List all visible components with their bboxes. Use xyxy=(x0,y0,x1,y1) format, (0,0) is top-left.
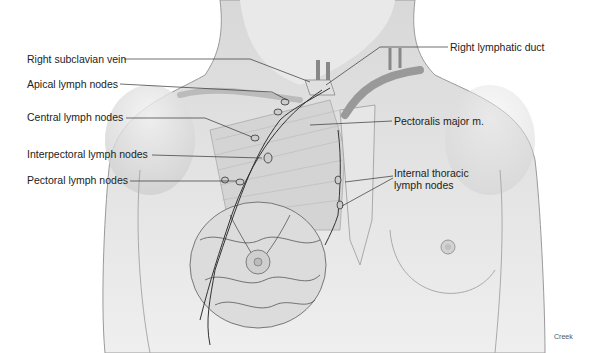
label-pectoral-lymph-nodes: Pectoral lymph nodes xyxy=(27,174,128,186)
label-internal-thoracic-line2: lymph nodes xyxy=(394,179,454,191)
label-central-lymph-nodes: Central lymph nodes xyxy=(27,111,123,123)
label-right-lymphatic-duct: Right lymphatic duct xyxy=(450,41,545,53)
label-apical-lymph-nodes: Apical lymph nodes xyxy=(27,78,118,90)
anatomy-figure: Right subclavian vein Apical lymph nodes… xyxy=(0,0,603,353)
apical-node xyxy=(281,99,289,105)
label-right-subclavian-vein: Right subclavian vein xyxy=(27,53,126,65)
internal-thoracic-node xyxy=(335,176,341,184)
pectoral-node xyxy=(236,179,244,185)
illustrator-credit: Creek xyxy=(554,333,573,340)
central-node xyxy=(251,135,259,141)
label-interpectoral-lymph-nodes: Interpectoral lymph nodes xyxy=(27,148,148,160)
interpectoral-node xyxy=(264,153,272,163)
label-pectoralis-major: Pectoralis major m. xyxy=(394,115,484,127)
label-internal-thoracic-line1: Internal thoracic xyxy=(394,167,469,179)
